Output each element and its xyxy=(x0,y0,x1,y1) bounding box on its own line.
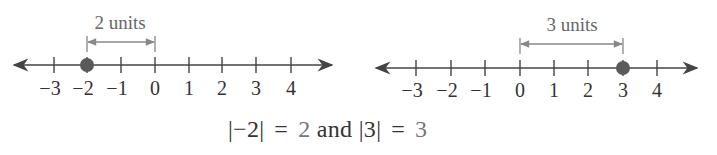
left-number-line: −3 −2 −1 0 1 2 3 4 2 units xyxy=(14,12,332,99)
operand: 3 xyxy=(364,116,376,142)
result-value: 3 xyxy=(415,116,427,142)
result-value: 2 xyxy=(298,116,310,142)
abs-bar: | xyxy=(259,116,264,142)
tick-label: −1 xyxy=(106,77,127,99)
tick-label: −1 xyxy=(470,79,491,101)
tick-label: 1 xyxy=(549,79,559,101)
tick-label: 3 xyxy=(251,77,261,99)
distance-bracket xyxy=(520,38,623,54)
tick-label: 0 xyxy=(515,79,525,101)
distance-label: 2 units xyxy=(94,12,145,33)
tick-label: 4 xyxy=(652,79,662,101)
distance-label: 3 units xyxy=(546,14,597,35)
tick-label: −2 xyxy=(72,77,93,99)
tick-label: 2 xyxy=(583,79,593,101)
tick-label: 2 xyxy=(217,77,227,99)
tick-label: 0 xyxy=(150,77,160,99)
conjunction: and xyxy=(317,116,353,142)
distance-bracket xyxy=(87,36,155,52)
tick-label: 4 xyxy=(286,77,296,99)
tick-label: 1 xyxy=(184,77,194,99)
right-number-line: −3 −2 −1 0 1 2 3 4 3 units xyxy=(376,14,697,101)
equals-sign: = xyxy=(274,116,288,142)
equals-sign: = xyxy=(391,116,405,142)
operand: −2 xyxy=(233,116,259,142)
tick-label: −2 xyxy=(436,79,457,101)
abs-bar: | xyxy=(376,116,381,142)
absolute-value-equation: |−2|=2 and |3|=3 xyxy=(228,116,427,143)
tick-label: 3 xyxy=(618,79,628,101)
point-marker xyxy=(616,61,630,75)
point-marker xyxy=(80,58,94,72)
tick-label: −3 xyxy=(39,77,60,99)
tick-label: −3 xyxy=(401,79,422,101)
